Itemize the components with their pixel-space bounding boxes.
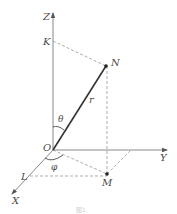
point-m-label: M — [101, 177, 113, 188]
vector-r — [53, 66, 106, 150]
x-axis-label: X — [11, 195, 20, 206]
theta-label: θ — [58, 114, 64, 124]
point-k-label: K — [42, 36, 51, 47]
point-m — [105, 172, 109, 176]
phi-label: φ — [51, 162, 58, 172]
spherical-coordinate-diagram: Z Y X K N O M L r θ φ 图1 — [0, 0, 177, 214]
theta-arc — [53, 126, 64, 130]
point-n-label: N — [110, 57, 121, 68]
point-n — [104, 64, 108, 68]
dashed-o-to-m — [53, 150, 107, 174]
z-axis-label: Z — [42, 11, 51, 22]
dashed-m-to-y — [107, 150, 131, 174]
dashed-k-to-n — [53, 41, 106, 66]
figure-caption: 图1 — [76, 206, 86, 214]
point-l-label: L — [20, 171, 28, 182]
x-axis — [12, 150, 53, 194]
y-axis-label: Y — [160, 152, 168, 163]
vector-r-label: r — [89, 94, 95, 105]
point-o-label: O — [43, 142, 51, 153]
